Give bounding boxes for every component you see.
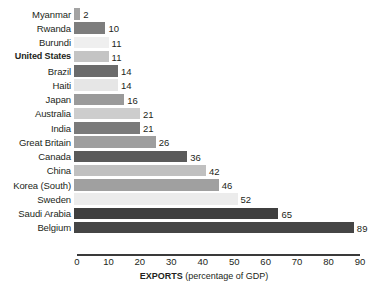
bar-track: 36: [74, 150, 378, 164]
chart-row: Saudi Arabia65: [0, 207, 378, 221]
bar-value-label: 21: [143, 108, 154, 119]
bar-track: 42: [74, 164, 378, 178]
bar-value-label: 52: [241, 194, 252, 205]
chart-row: Sweden52: [0, 192, 378, 206]
bar: [74, 51, 109, 63]
bar-track: 21: [74, 121, 378, 135]
chart-row: Brazil14: [0, 64, 378, 78]
chart-row: China42: [0, 164, 378, 178]
chart-row: Japan16: [0, 93, 378, 107]
bar-track: 26: [74, 135, 378, 149]
category-label: Brazil: [0, 66, 74, 77]
bar-value-label: 16: [127, 94, 138, 105]
bar-value-label: 36: [190, 151, 201, 162]
bar-value-label: 65: [281, 208, 292, 219]
bar-chart: Myanmar2Rwanda10Burundi11United States11…: [0, 0, 378, 292]
category-label: Saudi Arabia: [0, 208, 74, 219]
bar: [74, 37, 109, 49]
bar: [74, 94, 124, 106]
chart-row: Great Britain26: [0, 135, 378, 149]
x-axis-title-strong: EXPORTS: [140, 271, 183, 281]
category-label: Korea (South): [0, 180, 74, 191]
bar: [74, 8, 80, 20]
chart-row: Haiti14: [0, 78, 378, 92]
bar: [74, 79, 118, 91]
x-tick-label: 40: [197, 256, 208, 267]
bar: [74, 165, 206, 177]
chart-row: Burundi11: [0, 36, 378, 50]
category-label: Myanmar: [0, 9, 74, 20]
bar: [74, 151, 187, 163]
chart-row: Australia21: [0, 107, 378, 121]
bar-value-label: 10: [108, 23, 119, 34]
bar-track: 14: [74, 78, 378, 92]
bar-track: 10: [74, 21, 378, 35]
x-tick-label: 20: [135, 256, 146, 267]
bar-value-label: 11: [112, 51, 122, 62]
category-label: China: [0, 165, 74, 176]
bar-track: 11: [74, 36, 378, 50]
bar: [74, 65, 118, 77]
x-tick-label: 30: [166, 256, 177, 267]
bar: [74, 222, 354, 234]
bar: [74, 122, 140, 134]
chart-row: India21: [0, 121, 378, 135]
category-label: Belgium: [0, 222, 74, 233]
bar-value-label: 14: [121, 66, 132, 77]
chart-row: Canada36: [0, 150, 378, 164]
bar-value-label: 42: [209, 165, 220, 176]
chart-row: United States11: [0, 50, 378, 64]
category-label: Haiti: [0, 80, 74, 91]
bar: [74, 136, 156, 148]
bar-track: 52: [74, 192, 378, 206]
x-tick-label: 80: [323, 256, 334, 267]
bar-track: 65: [74, 207, 378, 221]
bar-value-label: 21: [143, 123, 154, 134]
category-label: Rwanda: [0, 23, 74, 34]
bar-track: 21: [74, 107, 378, 121]
chart-row: Rwanda10: [0, 21, 378, 35]
bar: [74, 193, 238, 205]
x-axis-title-plain: (percentage of GDP): [183, 271, 269, 281]
bar-value-label: 2: [83, 9, 88, 20]
category-label: Canada: [0, 151, 74, 162]
category-label: Japan: [0, 94, 74, 105]
bar: [74, 179, 219, 191]
bar-value-label: 14: [121, 80, 132, 91]
x-tick-label: 70: [292, 256, 303, 267]
bar-track: 11: [74, 50, 378, 64]
chart-row: Myanmar2: [0, 7, 378, 21]
bar: [74, 22, 105, 34]
chart-row: Korea (South)46: [0, 178, 378, 192]
x-tick-label: 90: [355, 256, 366, 267]
x-tick-label: 10: [103, 256, 114, 267]
bar-track: 89: [74, 221, 378, 235]
bar-track: 16: [74, 93, 378, 107]
category-label: Sweden: [0, 194, 74, 205]
category-label: Australia: [0, 108, 74, 119]
chart-plot-area: Myanmar2Rwanda10Burundi11United States11…: [0, 7, 378, 235]
category-label: Great Britain: [0, 137, 74, 148]
bar-track: 46: [74, 178, 378, 192]
bar-value-label: 26: [159, 137, 170, 148]
chart-row: Belgium89: [0, 221, 378, 235]
x-tick-label: 60: [260, 256, 271, 267]
x-tick-label: 0: [74, 256, 79, 267]
x-axis-title: EXPORTS (percentage of GDP): [0, 271, 378, 282]
bar-track: 14: [74, 64, 378, 78]
bar-track: 2: [74, 7, 378, 21]
x-tick-label: 50: [229, 256, 240, 267]
category-label: United States: [0, 51, 74, 62]
bar-value-label: 89: [357, 222, 368, 233]
category-label: India: [0, 123, 74, 134]
x-axis-ticks: 0102030405060708090: [0, 256, 378, 270]
bar-value-label: 11: [112, 37, 122, 48]
bar: [74, 108, 140, 120]
bar: [74, 208, 278, 220]
category-label: Burundi: [0, 37, 74, 48]
bar-value-label: 46: [222, 180, 233, 191]
